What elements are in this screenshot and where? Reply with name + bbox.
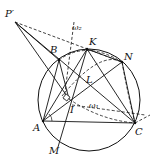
- label-omega1: ω₁: [89, 101, 99, 110]
- label-n: N: [123, 51, 134, 62]
- label-p-prime: P′: [4, 8, 15, 19]
- label-b: B: [49, 44, 57, 55]
- label-omega2: ω₂: [72, 23, 82, 32]
- label-l: L: [85, 74, 93, 85]
- label-k: K: [88, 36, 97, 47]
- circumcircle: [38, 49, 140, 151]
- label-m: M: [48, 145, 60, 156]
- label-c: C: [135, 126, 143, 137]
- right-angle-marker: [63, 94, 70, 101]
- geometry-diagram: P′ B K N L I A C M ω₁ ω₂: [0, 0, 164, 164]
- label-a: A: [32, 122, 40, 133]
- dashed-lines: [15, 22, 150, 123]
- points: [42, 48, 136, 124]
